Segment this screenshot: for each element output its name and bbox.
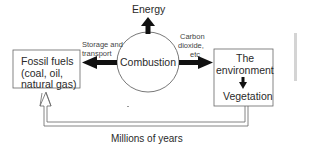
vegetation-label: Vegetation: [223, 90, 273, 102]
fossil-fuels-line3: natural gas): [21, 78, 76, 90]
energy-arrow: [141, 17, 155, 34]
storage-line2: transport: [82, 50, 112, 59]
fossil-fuels-line1: Fossil fuels: [21, 55, 74, 67]
combustion-label: Combustion: [120, 56, 176, 68]
carbon-line3: etc: [190, 51, 200, 60]
environment-line2: environment: [216, 64, 274, 76]
edge-bar: [294, 33, 297, 81]
environment-line1: The: [236, 52, 254, 64]
millions-label: Millions of years: [111, 133, 183, 145]
energy-label: Energy: [132, 3, 165, 15]
